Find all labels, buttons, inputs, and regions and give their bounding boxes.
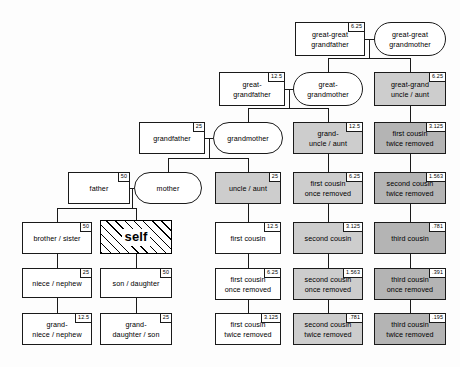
relatedness-percent-badge: 6.25 [264,268,281,278]
node-label: grandfather [142,134,202,143]
node-first-cousin-once-removed-b[interactable]: first cousin once removed6.25 [215,268,281,300]
node-first-cousin-twice-removed-a[interactable]: first cousin twice removed3.125 [374,122,446,154]
node-niece-nephew[interactable]: niece / nephew25 [22,268,92,298]
node-label: second cousin twice removed [377,179,443,197]
node-label: third cousin twice removed [377,320,443,338]
node-second-cousin-twice-removed-a[interactable]: second cousin twice removed1.563 [374,172,446,204]
relatedness-percent-badge: .781 [346,313,363,323]
relatedness-percent-badge: 1.563 [426,172,446,182]
node-label: second cousin twice removed [296,320,360,338]
node-grand-daughter-son[interactable]: grand- daughter / son25 [100,313,172,345]
node-label: third cousin once removed [377,275,443,293]
node-label: great-grand uncle / aunt [377,80,443,98]
node-first-cousin-twice-removed-b[interactable]: first cousin twice removed3.125 [215,313,281,345]
relatedness-percent-badge: 25 [269,172,281,182]
node-great-great-grandmother[interactable]: great-great grandmother [374,22,446,56]
node-grand-uncle-aunt[interactable]: grand- uncle / aunt12.5 [293,122,363,154]
node-label: first cousin twice removed [377,129,443,147]
node-grand-niece-nephew[interactable]: grand- niece / nephew12.5 [22,313,92,345]
relatedness-percent-badge: 12.5 [268,72,285,82]
relatedness-percent-badge: 12.5 [346,122,363,132]
node-great-grandfather[interactable]: great- grandfather12.5 [219,72,285,106]
node-label: grand- daughter / son [103,320,169,338]
node-label: first cousin once removed [296,179,360,197]
node-label: first cousin twice removed [218,320,278,338]
node-label: father [71,184,127,193]
node-father[interactable]: father50 [68,172,130,204]
relatedness-percent-badge: 25 [160,313,172,323]
node-label: grandmother [216,134,280,143]
node-third-cousin-once-removed[interactable]: third cousin once removed.391 [374,268,446,300]
node-grandmother[interactable]: grandmother [213,122,283,154]
node-label: grand- uncle / aunt [296,129,360,147]
node-label: great- grandmother [296,80,360,98]
relatedness-percent-badge: 6.25 [348,22,365,32]
relatedness-percent-badge: 6.25 [429,72,446,82]
node-first-cousin-once-removed-a[interactable]: first cousin once removed6.25 [293,172,363,204]
relatedness-percent-badge: 3.125 [343,222,363,232]
relatedness-percent-badge: 12.5 [75,313,92,323]
node-great-great-grandfather[interactable]: great-great grandfather6.25 [295,22,365,56]
node-grandfather[interactable]: grandfather25 [139,122,205,154]
node-second-cousin-once-removed[interactable]: second cousin once removed1.563 [293,268,363,300]
node-mother[interactable]: mother [134,172,202,204]
node-label: brother / sister [25,234,89,243]
node-second-cousin-twice-removed-b[interactable]: second cousin twice removed.781 [293,313,363,345]
node-uncle-aunt[interactable]: uncle / aunt25 [215,172,281,204]
node-son-daughter[interactable]: son / daughter50 [100,268,172,298]
node-label: first cousin [218,234,278,243]
node-great-grandmother[interactable]: great- grandmother [293,72,363,106]
kinship-chart: great-great grandfather6.25great-great g… [0,0,460,367]
node-label: great- grandfather [222,80,282,98]
node-label: son / daughter [103,279,169,288]
node-label: grand- niece / nephew [25,320,89,338]
node-label: self [122,229,151,246]
relatedness-percent-badge: 3.125 [426,122,446,132]
relatedness-percent-badge: .781 [429,222,446,232]
node-third-cousin[interactable]: third cousin.781 [374,222,446,254]
node-label: great-great grandmother [377,30,443,48]
relatedness-percent-badge: .195 [429,313,446,323]
node-great-grand-uncle-aunt[interactable]: great-grand uncle / aunt6.25 [374,72,446,106]
relatedness-percent-badge: 12.5 [264,222,281,232]
node-label: niece / nephew [25,279,89,288]
node-label: great-great grandfather [298,30,362,48]
relatedness-percent-badge: 50 [80,222,92,232]
node-label: first cousin once removed [218,275,278,293]
node-brother-sister[interactable]: brother / sister50 [22,222,92,254]
relatedness-percent-badge: 25 [80,268,92,278]
relatedness-percent-badge: 1.563 [343,268,363,278]
relatedness-percent-badge: .391 [429,268,446,278]
node-second-cousin[interactable]: second cousin3.125 [293,222,363,254]
node-label: third cousin [377,234,443,243]
node-third-cousin-twice-removed[interactable]: third cousin twice removed.195 [374,313,446,345]
node-label: mother [137,184,199,193]
node-self[interactable]: self [100,220,172,254]
node-label: second cousin once removed [296,275,360,293]
relatedness-percent-badge: 3.125 [261,313,281,323]
node-label: second cousin [296,234,360,243]
node-first-cousin[interactable]: first cousin12.5 [215,222,281,254]
relatedness-percent-badge: 6.25 [346,172,363,182]
relatedness-percent-badge: 50 [160,268,172,278]
relatedness-percent-badge: 50 [118,172,130,182]
node-label: uncle / aunt [218,184,278,193]
relatedness-percent-badge: 25 [193,122,205,132]
